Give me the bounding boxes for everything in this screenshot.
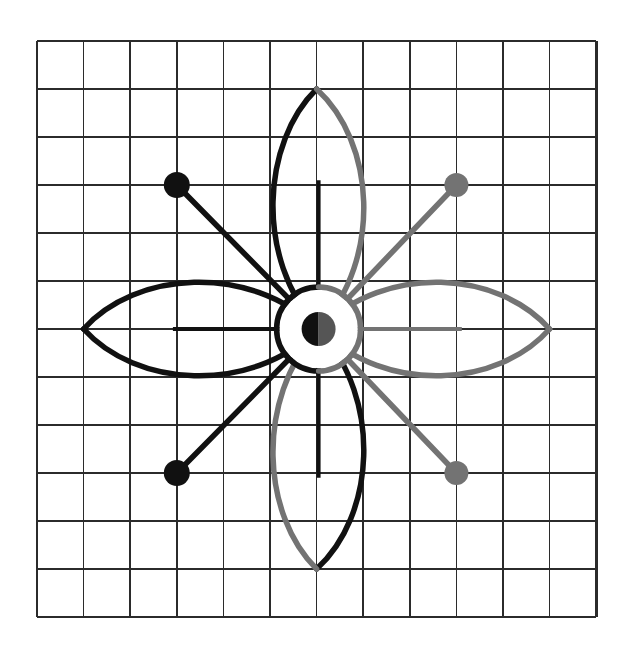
figure-page [0, 0, 631, 652]
spoke-up-left-dot [164, 172, 190, 198]
spoke-up-right-dot [444, 173, 468, 197]
spoke-down-right-dot [444, 461, 468, 485]
hub-group [277, 287, 361, 371]
symmetry-figure-canvas [0, 0, 631, 652]
spoke-down-left-dot [164, 460, 190, 486]
